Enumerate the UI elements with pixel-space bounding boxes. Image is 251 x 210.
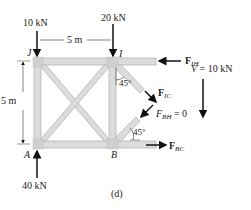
reaction-A-label: 40 kN <box>22 181 47 191</box>
force-FIC-label: FIC <box>158 88 171 100</box>
joint-I-label: I <box>119 49 122 59</box>
angle-bottom-label: 45° <box>133 128 146 137</box>
shear-label: V = 10 kN <box>191 64 232 74</box>
force-FBC-label: FBC <box>169 141 184 153</box>
truss-diagram <box>0 0 251 210</box>
force-FBH-label: FBH = 0 <box>156 109 187 121</box>
joint-J-label: J <box>27 48 31 58</box>
angle-top-label: 45° <box>119 79 132 88</box>
horizontal-dimension: 5 m <box>67 35 82 45</box>
figure-caption: (d) <box>111 189 123 199</box>
load-I-label: 20 kN <box>101 13 126 23</box>
joint-A-label: A <box>24 150 30 160</box>
load-J-label: 10 kN <box>23 18 48 28</box>
joint-B-label: B <box>111 150 117 160</box>
vertical-dimension: 5 m <box>1 96 16 106</box>
